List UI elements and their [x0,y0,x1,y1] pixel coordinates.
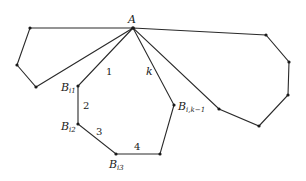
vertex-a [131,26,135,30]
label-bi1: Bi1 [60,81,76,95]
edge-label-2: 2 [83,100,89,111]
center-polygon [78,28,174,154]
right-polygon [133,28,289,126]
label-bi2: Bi2 [60,120,76,134]
vertices [15,26,290,155]
vertex-bik [172,103,175,106]
left-polygon [17,28,133,87]
vertex-bi2 [76,122,79,125]
polygon-diagram: A Bi1 Bi2 Bi3 Bi,k−1 1 2 3 4 k [0,0,306,181]
edge-label-k: k [146,65,153,78]
label-bi3: Bi3 [108,158,124,172]
edge-label-3: 3 [96,126,102,137]
vertex-bi3 [114,152,117,155]
label-bik: Bi,k−1 [177,100,205,114]
edge-label-4: 4 [134,141,140,152]
label-a: A [127,13,136,26]
edge-label-1: 1 [106,66,112,77]
vertex-bi1 [76,84,79,87]
